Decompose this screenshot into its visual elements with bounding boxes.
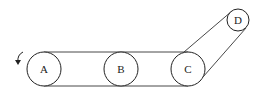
rotation-arrow-icon <box>15 52 23 65</box>
pulley-a-label: A <box>40 63 48 75</box>
pulley-d: D <box>227 9 249 31</box>
pulley-b-label: B <box>117 63 124 75</box>
belt-lower-c-d <box>203 28 246 77</box>
pulley-c: C <box>171 52 205 86</box>
pulley-a: A <box>27 52 61 86</box>
pulley-c-label: C <box>184 63 191 75</box>
belt-upper-c-d <box>184 11 232 52</box>
pulley-d-label: D <box>234 14 242 26</box>
pulley-diagram: A B C D <box>0 0 262 94</box>
pulley-b: B <box>104 52 138 86</box>
